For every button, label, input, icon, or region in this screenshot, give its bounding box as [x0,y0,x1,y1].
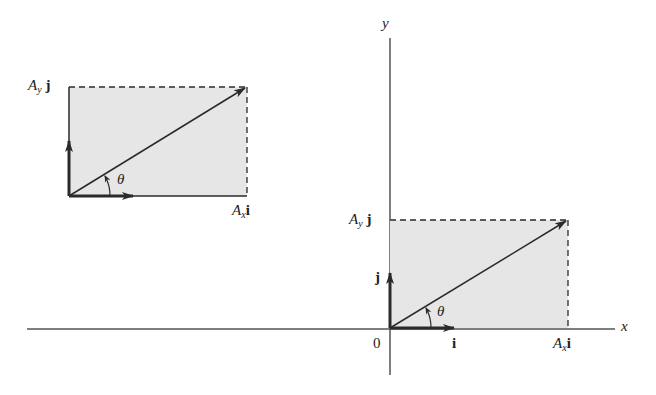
left-theta-label: θ [117,172,124,187]
left-ay-j-label: Ay j [28,78,50,95]
unit-i-label: i [452,336,456,351]
x-axis-label: x [621,319,628,334]
right-theta-label: θ [437,304,444,319]
origin-label: 0 [373,336,381,351]
right-vector-diagram [390,220,568,328]
right-ay-j-label: Ay j [349,212,371,229]
y-axis-label: y [382,16,389,31]
right-ax-i-label: Axi [553,336,571,353]
unit-j-label: j [375,270,380,285]
left-vector-diagram [69,87,247,196]
left-ax-i-label: Axi [232,203,250,220]
